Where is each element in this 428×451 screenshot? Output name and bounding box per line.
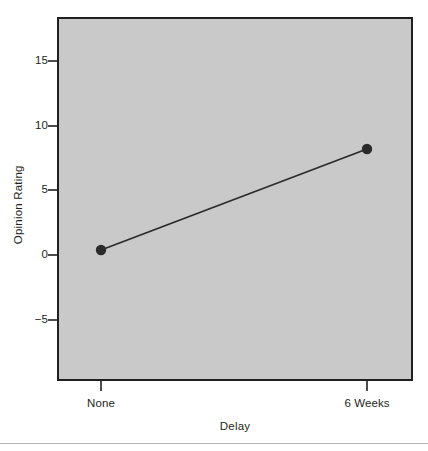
y-tick-label: −5 xyxy=(8,314,48,326)
footer-divider xyxy=(0,443,428,444)
plot-panel xyxy=(57,17,413,381)
x-tick-label-none: None xyxy=(87,398,115,410)
x-axis-ticks xyxy=(101,381,367,391)
x-axis-title: Delay xyxy=(57,421,413,433)
y-tick-label: 15 xyxy=(8,55,48,67)
y-axis-title: Opinion Rating xyxy=(13,145,25,265)
y-tick-label: 10 xyxy=(8,120,48,132)
x-tick-label-6-weeks: 6 Weeks xyxy=(344,398,389,410)
y-axis-ticks xyxy=(48,61,57,320)
chart-figure: 15 10 5 0 −5 None 6 Weeks Opinion Rating… xyxy=(0,0,428,451)
